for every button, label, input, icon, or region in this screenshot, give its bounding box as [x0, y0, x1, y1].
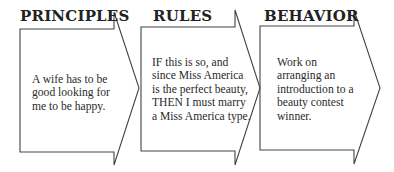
- rules-heading: RULES: [153, 7, 212, 25]
- principles-text: A wife has to be good looking for me to …: [32, 73, 122, 113]
- behavior-heading: BEHAVIOR: [264, 7, 359, 25]
- rules-text: IF this is so, and since Miss America is…: [152, 56, 252, 123]
- principles-heading: PRINCIPLES: [20, 7, 130, 25]
- behavior-text: Work on arranging an introduction to a b…: [277, 56, 361, 123]
